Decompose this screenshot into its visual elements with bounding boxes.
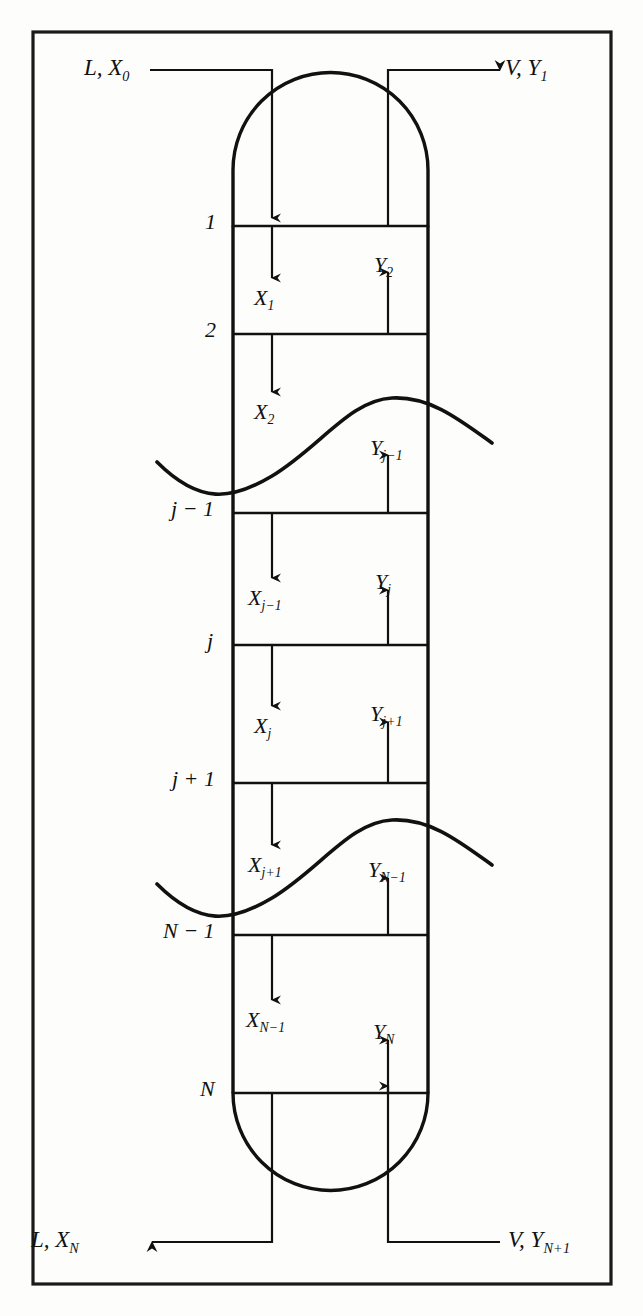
vapor-flow-label-yNm1: YN−1 bbox=[368, 859, 406, 885]
figure-border bbox=[33, 32, 611, 1284]
top-liquid-feed-pipe bbox=[150, 70, 272, 218]
column-diagram bbox=[0, 0, 643, 1316]
vapor-flow-label-yj: Yj bbox=[375, 571, 391, 597]
column-bottom-cap bbox=[233, 1093, 428, 1191]
vapor-flow-label-yN: YN bbox=[373, 1021, 395, 1047]
stage-label-j: j bbox=[207, 630, 213, 652]
stage-label-j-plus-1: j + 1 bbox=[172, 768, 215, 790]
figure-root: L, X0 V, Y1 L, XN V, YN+1 1 2 j − 1 j j … bbox=[0, 0, 643, 1316]
bottom-liquid-product-pipe bbox=[152, 1093, 272, 1242]
stage-label-1: 1 bbox=[205, 211, 216, 233]
top-vapor-product-pipe bbox=[388, 70, 500, 226]
vapor-flow-label-yjp1: Yj+1 bbox=[370, 703, 403, 729]
stage-label-2: 2 bbox=[205, 319, 216, 341]
column-top-cap bbox=[233, 73, 428, 227]
vapor-flow-label-yjm1: Yj−1 bbox=[370, 437, 403, 463]
liquid-flow-label-xjp1: Xj+1 bbox=[248, 854, 282, 880]
break-wave-upper bbox=[157, 398, 492, 494]
liquid-flow-label-xNm1: XN−1 bbox=[246, 1009, 285, 1035]
break-wave-lower bbox=[157, 820, 492, 916]
vapor-flow-label-y2: Y2 bbox=[374, 254, 393, 280]
bottom-vapor-feed-pipe bbox=[388, 1086, 500, 1242]
liquid-flow-label-x2: X2 bbox=[254, 401, 274, 427]
liquid-flow-label-xj: Xj bbox=[254, 715, 271, 741]
stream-label-top-liquid-in: L, X0 bbox=[84, 56, 130, 83]
stream-label-bottom-liquid-out: L, XN bbox=[31, 1228, 79, 1255]
stage-label-j-minus-1: j − 1 bbox=[171, 498, 214, 520]
stream-label-bottom-vapor-in: V, YN+1 bbox=[508, 1228, 570, 1255]
liquid-flow-label-xjm1: Xj−1 bbox=[248, 587, 282, 613]
liquid-flow-label-x1: X1 bbox=[254, 287, 274, 313]
stage-label-N-minus-1: N − 1 bbox=[163, 920, 215, 942]
stage-label-N: N bbox=[200, 1078, 215, 1100]
stream-label-top-vapor-out: V, Y1 bbox=[505, 56, 548, 83]
